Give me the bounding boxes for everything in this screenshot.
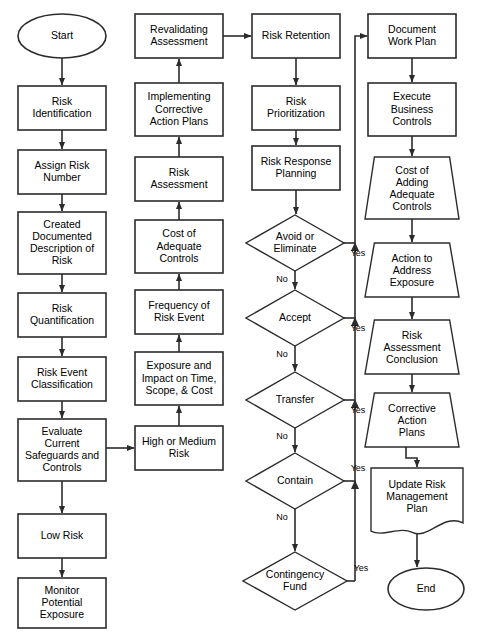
node-contingency-fund[interactable]: ContingencyFund	[243, 552, 347, 610]
node-label-implementing-corrective-action-plans: ImplementingCorrectiveAction Plans	[147, 90, 210, 127]
node-monitor-potential-exposure[interactable]: MonitorPotentialExposure	[18, 578, 106, 628]
node-end[interactable]: End	[388, 568, 464, 610]
node-label-cost-of-adding-adequate-controls: Cost ofAddingAdequateControls	[390, 163, 435, 212]
node-label-accept: Accept	[279, 311, 311, 323]
edge-label-e-avoid-yes-bus: Yes	[351, 248, 366, 258]
node-label-contain: Contain	[277, 474, 313, 486]
nodes-layer: StartRiskIdentificationAssign RiskNumber…	[18, 14, 464, 628]
node-contain[interactable]: Contain	[246, 453, 344, 509]
node-label-monitor-potential-exposure: MonitorPotentialExposure	[40, 583, 85, 620]
edge-label-e-accept-no-transfer: No	[276, 349, 288, 359]
node-risk-prioritization[interactable]: RiskPrioritization	[252, 86, 340, 130]
edge-label-e-avoid-no-accept: No	[276, 274, 288, 284]
node-label-frequency-of-risk-event: Frequency ofRisk Event	[148, 299, 209, 323]
node-cost-of-adding-adequate-controls[interactable]: Cost ofAddingAdequateControls	[365, 157, 459, 219]
node-action-to-address-exposure[interactable]: Action toAddressExposure	[365, 243, 459, 297]
node-label-exposure-and-impact: Exposure andImpact on Time,Scope, & Cost	[142, 359, 217, 396]
node-evaluate-current-safeguards[interactable]: EvaluateCurrentSafeguards andControls	[18, 419, 106, 481]
node-label-risk-retention: Risk Retention	[262, 29, 330, 41]
edge-label-e-conting-yes-bus: Yes	[354, 563, 369, 573]
node-risk-response-planning[interactable]: Risk ResponsePlanning	[252, 146, 340, 190]
node-document-work-plan[interactable]: DocumentWork Plan	[368, 14, 456, 58]
node-low-risk[interactable]: Low Risk	[18, 514, 106, 558]
node-cost-of-adequate-controls[interactable]: Cost ofAdequateControls	[135, 220, 223, 273]
node-label-transfer: Transfer	[276, 393, 315, 405]
edge-label-e-accept-yes-bus: Yes	[351, 323, 366, 333]
edge-label-e-transfer-yes-bus: Yes	[351, 405, 366, 415]
edge-label-e-transfer-no-contain: No	[276, 431, 288, 441]
node-update-risk-management-plan[interactable]: Update RiskManagementPlan	[371, 468, 463, 534]
node-risk-quantification[interactable]: RiskQuantification	[18, 293, 106, 337]
node-label-start: Start	[51, 29, 73, 41]
edge-label-e-contain-yes-bus: Yes	[351, 463, 366, 473]
edge-yes-bus-vertical	[355, 36, 367, 581]
edges-layer	[62, 36, 417, 581]
node-label-avoid-or-eliminate: Avoid orEliminate	[273, 230, 316, 254]
edge-label-e-contain-no-conting: No	[276, 512, 288, 522]
node-label-document-work-plan: DocumentWork Plan	[388, 23, 436, 47]
node-avoid-or-eliminate[interactable]: Avoid orEliminate	[246, 215, 344, 271]
edge-e-corrective-update	[406, 447, 417, 467]
flowchart-canvas: StartRiskIdentificationAssign RiskNumber…	[0, 0, 491, 637]
node-revalidating-assessment[interactable]: RevalidatingAssessment	[135, 14, 223, 58]
node-risk-retention[interactable]: Risk Retention	[252, 14, 340, 58]
node-risk-assessment-conclusion[interactable]: RiskAssessmentConclusion	[365, 320, 459, 374]
node-label-low-risk: Low Risk	[41, 529, 84, 541]
node-created-documented-description[interactable]: CreatedDocumentedDescription ofRisk	[18, 212, 106, 274]
node-label-end: End	[417, 582, 436, 594]
node-exposure-and-impact[interactable]: Exposure andImpact on Time,Scope, & Cost	[135, 352, 223, 405]
node-risk-assessment[interactable]: RiskAssessment	[135, 157, 223, 201]
node-risk-identification[interactable]: RiskIdentification	[18, 86, 106, 130]
node-risk-event-classification[interactable]: Risk EventClassification	[18, 357, 106, 401]
node-transfer[interactable]: Transfer	[246, 372, 344, 428]
flowchart-svg: StartRiskIdentificationAssign RiskNumber…	[0, 0, 491, 637]
node-accept[interactable]: Accept	[246, 290, 344, 346]
node-execute-business-controls[interactable]: ExecuteBusinessControls	[368, 83, 456, 136]
node-label-action-to-address-exposure: Action toAddressExposure	[390, 251, 435, 288]
node-frequency-of-risk-event[interactable]: Frequency ofRisk Event	[135, 290, 223, 334]
node-implementing-corrective-action-plans[interactable]: ImplementingCorrectiveAction Plans	[135, 83, 223, 136]
node-label-execute-business-controls: ExecuteBusinessControls	[391, 90, 434, 127]
node-label-cost-of-adequate-controls: Cost ofAdequateControls	[157, 227, 202, 264]
node-corrective-action-plans[interactable]: CorrectiveActionPlans	[365, 393, 459, 447]
node-label-risk-event-classification: Risk EventClassification	[31, 366, 93, 390]
node-high-or-medium-risk[interactable]: High or MediumRisk	[135, 426, 223, 470]
node-start[interactable]: Start	[18, 14, 106, 58]
node-assign-risk-number[interactable]: Assign RiskNumber	[18, 150, 106, 194]
node-label-revalidating-assessment: RevalidatingAssessment	[150, 23, 208, 47]
